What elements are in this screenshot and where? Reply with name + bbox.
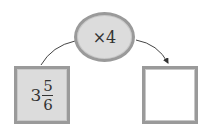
right-arrow-arc (136, 40, 168, 63)
input-box: 3 5 6 (14, 66, 70, 124)
answer-box[interactable] (142, 66, 198, 124)
whole-part: 3 (31, 85, 42, 105)
fraction: 5 6 (42, 78, 53, 113)
operation-label: ×4 (93, 28, 117, 47)
mixed-number: 3 5 6 (31, 78, 54, 113)
numerator: 5 (43, 78, 53, 94)
left-connector-arc (41, 41, 75, 65)
operation-oval: ×4 (74, 12, 135, 62)
denominator: 6 (43, 97, 53, 113)
